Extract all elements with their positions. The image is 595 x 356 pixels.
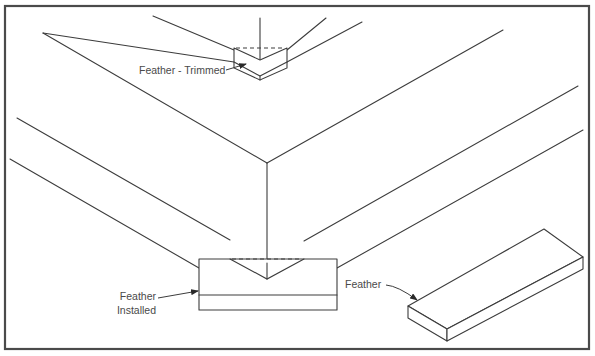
label-feather: Feather: [345, 277, 381, 291]
label-feather-installed-line1: Feather: [112, 289, 156, 303]
label-feather-installed: Feather Installed: [112, 289, 156, 317]
upper-box-edges: [43, 16, 362, 62]
feather-joint-diagram: [0, 0, 595, 356]
loose-feather: [408, 229, 583, 341]
label-feather-trimmed: Feather - Trimmed: [139, 63, 225, 77]
leader-feather: [386, 285, 417, 300]
main-box-edges: [10, 30, 583, 268]
installed-feather-block: [199, 259, 337, 310]
label-feather-installed-line2: Installed: [112, 303, 156, 317]
leader-feather-installed: [158, 291, 198, 298]
